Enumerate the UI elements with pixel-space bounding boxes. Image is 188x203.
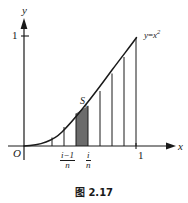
x-axis-label: x — [178, 141, 183, 152]
x-axis-tick-label-1: 1 — [138, 150, 144, 161]
partition-right-bound-label: i n — [86, 151, 91, 171]
y-axis-tick-label-1: 1 — [12, 30, 18, 41]
curve-label-exponent: 2 — [157, 28, 160, 35]
origin-label: O — [13, 148, 21, 159]
shaded-region-si — [76, 106, 88, 146]
y-axis-label: y — [22, 5, 27, 16]
figure-container: y x O 1 1 Si y=x2 i−1 n i n 图 2.17 — [0, 0, 188, 203]
partition-left-bound-label: i−1 n — [60, 151, 75, 171]
region-label-si: Si — [80, 96, 87, 109]
curve-equation-label: y=x2 — [144, 29, 160, 40]
x-axis-arrowhead — [166, 143, 176, 150]
region-label-subscript: i — [85, 101, 87, 109]
y-axis-arrowhead — [21, 18, 28, 29]
fraction-denominator: n — [86, 161, 91, 170]
fraction-denominator: n — [60, 161, 75, 170]
figure-caption: 图 2.17 — [0, 184, 188, 199]
